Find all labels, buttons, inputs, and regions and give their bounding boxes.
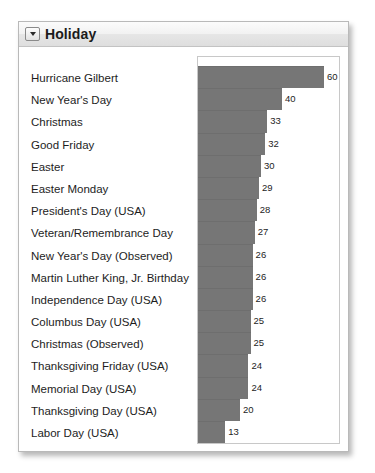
category-label: Easter Monday — [31, 178, 197, 200]
category-label: Christmas (Observed) — [31, 333, 197, 355]
bar-value-label: 33 — [267, 116, 281, 127]
bar-value-label: 32 — [265, 138, 279, 149]
triangle-down-icon[interactable] — [25, 27, 40, 41]
bar-value-label: 27 — [255, 227, 269, 238]
bar[interactable] — [198, 221, 255, 243]
bar-value-label: 26 — [253, 249, 267, 260]
bar-row: 20 — [198, 399, 339, 421]
bar[interactable] — [198, 421, 225, 443]
bar-value-label: 25 — [251, 338, 265, 349]
bar-row: 60 — [198, 66, 339, 88]
bar-row: 24 — [198, 354, 339, 376]
category-label: Labor Day (USA) — [31, 422, 197, 444]
bar[interactable] — [198, 332, 251, 354]
bar-value-label: 24 — [248, 382, 262, 393]
bar-row: 26 — [198, 288, 339, 310]
category-label: Veteran/Remembrance Day — [31, 222, 197, 244]
bar-chart-plot-area: 6040333230292827262626252524242013 — [197, 56, 340, 444]
bar[interactable] — [198, 199, 257, 221]
panel-body: Hurricane GilbertNew Year's DayChristmas… — [19, 47, 348, 451]
page-title: Holiday — [45, 26, 96, 42]
bar-row: 40 — [198, 88, 339, 110]
category-label: Martin Luther King, Jr. Birthday — [31, 267, 197, 289]
category-label: Columbus Day (USA) — [31, 311, 197, 333]
bar-value-label: 13 — [225, 426, 239, 437]
category-label: Thanksgiving Day (USA) — [31, 400, 197, 422]
bar-value-label: 29 — [259, 182, 273, 193]
bar-value-label: 26 — [253, 271, 267, 282]
screenshot-root: Holiday Hurricane GilbertNew Year's DayC… — [0, 0, 375, 473]
category-label: Thanksgiving Friday (USA) — [31, 355, 197, 377]
bar-chart-bars: 6040333230292827262626252524242013 — [198, 66, 339, 443]
bar[interactable] — [198, 310, 251, 332]
category-label: Christmas — [31, 111, 197, 133]
bar[interactable] — [198, 354, 248, 376]
bar-value-label: 24 — [248, 360, 262, 371]
bar[interactable] — [198, 399, 240, 421]
bar-row: 30 — [198, 155, 339, 177]
triangle-glyph — [30, 32, 36, 36]
category-label: Independence Day (USA) — [31, 289, 197, 311]
category-label: Memorial Day (USA) — [31, 378, 197, 400]
category-label: President's Day (USA) — [31, 200, 197, 222]
bar-value-label: 28 — [257, 204, 271, 215]
panel-header[interactable]: Holiday — [19, 22, 348, 47]
bar[interactable] — [198, 88, 282, 110]
category-label: New Year's Day — [31, 89, 197, 111]
bar[interactable] — [198, 66, 324, 88]
bar-value-label: 40 — [282, 94, 296, 105]
bar[interactable] — [198, 110, 267, 132]
bar[interactable] — [198, 177, 259, 199]
bar-row: 32 — [198, 133, 339, 155]
bar[interactable] — [198, 288, 253, 310]
bar[interactable] — [198, 155, 261, 177]
bar[interactable] — [198, 266, 253, 288]
bar-row: 27 — [198, 221, 339, 243]
bar-value-label: 26 — [253, 293, 267, 304]
bar[interactable] — [198, 377, 248, 399]
bar-row: 25 — [198, 310, 339, 332]
category-label-column: Hurricane GilbertNew Year's DayChristmas… — [31, 67, 197, 444]
bar-row: 13 — [198, 421, 339, 443]
bar-row: 24 — [198, 377, 339, 399]
bar-value-label: 30 — [261, 160, 275, 171]
category-label: Easter — [31, 156, 197, 178]
bar[interactable] — [198, 133, 265, 155]
category-label: Good Friday — [31, 134, 197, 156]
bar-row: 26 — [198, 244, 339, 266]
category-label: New Year's Day (Observed) — [31, 245, 197, 267]
bar-row: 26 — [198, 266, 339, 288]
bar[interactable] — [198, 244, 253, 266]
bar-value-label: 60 — [324, 71, 338, 82]
bar-value-label: 25 — [251, 315, 265, 326]
category-label: Hurricane Gilbert — [31, 67, 197, 89]
bar-row: 29 — [198, 177, 339, 199]
bar-row: 25 — [198, 332, 339, 354]
bar-row: 33 — [198, 110, 339, 132]
bar-row: 28 — [198, 199, 339, 221]
holiday-panel: Holiday Hurricane GilbertNew Year's DayC… — [18, 21, 349, 452]
bar-value-label: 20 — [240, 404, 254, 415]
